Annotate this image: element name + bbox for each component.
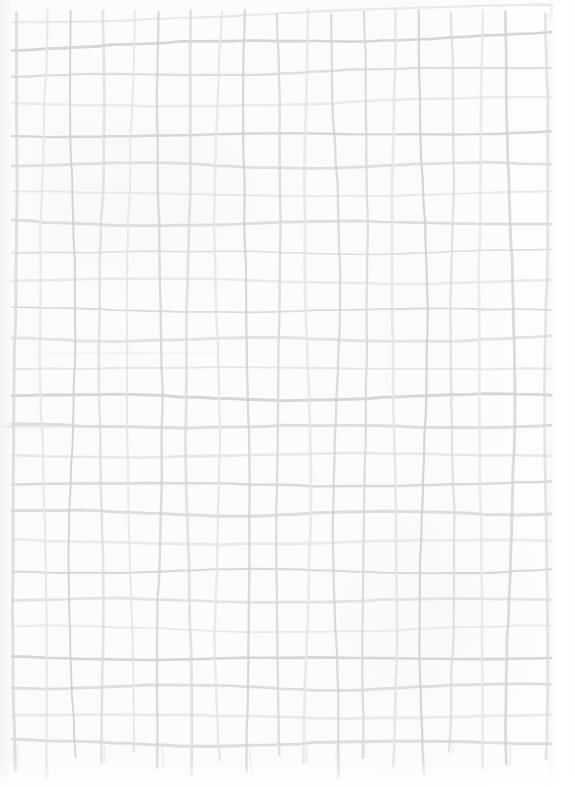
- grid-paper-scene: [0, 0, 575, 787]
- grid-horizontal-lines: [12, 5, 551, 746]
- hand-drawn-grid: [0, 0, 575, 787]
